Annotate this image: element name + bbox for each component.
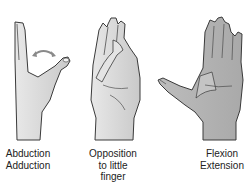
hand-thumb-opposition-icon [91,18,140,140]
caption-abduction: Abduction Adduction [0,148,56,171]
caption-line: Flexion [195,148,249,160]
caption-flexion: Flexion Extension [195,148,249,171]
caption-line: Abduction [0,148,56,160]
hand-thumb-abduction-icon [15,22,70,140]
caption-line: Adduction [0,160,56,172]
caption-line: Extension [195,160,249,172]
caption-line: Opposition [83,148,143,160]
hand-thumb-flexion-icon [158,17,243,140]
caption-line: finger [83,171,143,183]
arrow-icon [34,51,54,55]
caption-opposition: Opposition to little finger [83,148,143,183]
caption-line: to little [83,160,143,172]
